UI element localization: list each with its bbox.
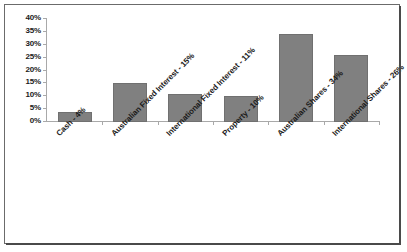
x-axis-tick-mark <box>102 122 103 125</box>
x-axis-tick-mark <box>268 122 269 125</box>
x-axis-tick-label: Property - 10% <box>220 93 265 138</box>
x-axis-tick-mark <box>379 122 380 125</box>
y-axis-tick-mark <box>43 57 46 58</box>
y-axis-tick-mark <box>43 31 46 32</box>
x-axis-tick-mark <box>324 122 325 125</box>
x-axis-tick-label: Cash - 4% <box>54 105 87 138</box>
y-axis-tick-mark <box>43 44 46 45</box>
y-axis-tick-mark <box>43 18 46 19</box>
y-axis-tick-mark <box>43 70 46 71</box>
x-axis-tick-mark <box>213 122 214 125</box>
x-axis-labels: Cash - 4%Australian Fixed Interest - 15%… <box>5 5 401 243</box>
y-axis-tick-mark <box>43 95 46 96</box>
y-axis-tick-mark <box>43 121 46 122</box>
y-axis-tick-mark <box>43 82 46 83</box>
bar-chart: 40%35%30%25%20%15%10%5%0% Cash - 4%Austr… <box>5 5 399 243</box>
y-axis-tick-mark <box>43 108 46 109</box>
x-axis-tick-mark <box>158 122 159 125</box>
chart-frame: 40%35%30%25%20%15%10%5%0% Cash - 4%Austr… <box>4 4 400 244</box>
x-axis-tick-label: International Fixed Interest - 11% <box>165 46 257 138</box>
